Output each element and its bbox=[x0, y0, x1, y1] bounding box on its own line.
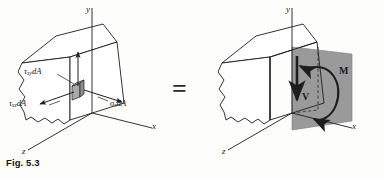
sigma-x-da-label: σxdA bbox=[110, 99, 126, 108]
tau-xy-suffix: dA bbox=[32, 66, 41, 76]
left-y-axis-label: y bbox=[86, 5, 90, 14]
figure-caption: Fig. 5.3 bbox=[6, 158, 40, 168]
tau-xz-da-label: τxzdA bbox=[9, 99, 26, 108]
shear-force-label: V bbox=[302, 92, 309, 102]
right-x-axis-label: x bbox=[352, 122, 356, 131]
equals-sign: = bbox=[172, 76, 187, 102]
figure-5-3-container: y x z τxydA τxzdA σxdA Fig. 5.3 = y x z … bbox=[0, 0, 384, 180]
left-x-axis-label: x bbox=[152, 122, 156, 131]
left-z-axis-label: z bbox=[22, 147, 26, 156]
right-z-axis-label: z bbox=[222, 147, 226, 156]
bending-moment-label: M bbox=[339, 66, 348, 76]
sigma-x-suffix: dA bbox=[117, 98, 126, 108]
right-y-axis-label: y bbox=[286, 5, 290, 14]
tau-xz-suffix: dA bbox=[17, 98, 26, 108]
tau-xy-da-label: τxydA bbox=[24, 67, 41, 76]
figure-graphics bbox=[0, 0, 384, 180]
